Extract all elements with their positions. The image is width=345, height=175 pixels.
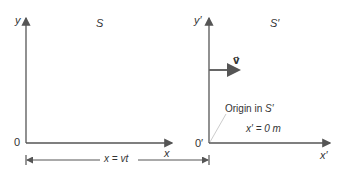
s-origin-label: 0 [14, 137, 20, 148]
origin-leader-line [210, 114, 226, 142]
sp-origin-label: 0′ [195, 138, 203, 149]
sp-y-label: y′ [194, 15, 202, 26]
s-y-label: y [15, 15, 21, 26]
displacement-label: x = vt [104, 154, 128, 164]
sp-x-label: x′ [320, 150, 328, 161]
s-frame-title: S [96, 18, 103, 29]
velocity-label: v⃗ [233, 56, 240, 66]
position-equation: x′ = 0 m [246, 124, 281, 134]
origin-note: Origin in S′ [225, 104, 274, 114]
sp-frame-title: S′ [270, 18, 279, 29]
s-x-label: x [164, 148, 170, 159]
diagram-canvas [0, 0, 345, 175]
